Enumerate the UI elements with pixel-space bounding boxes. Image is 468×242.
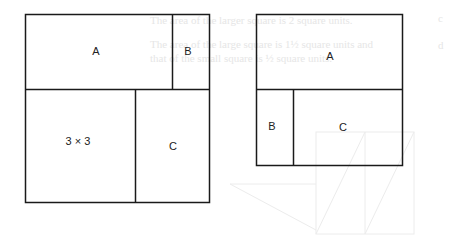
right-label-b: B [268, 120, 275, 132]
left-label-b: B [184, 45, 191, 57]
left-diagram [26, 15, 210, 203]
right-label-c: C [339, 121, 347, 133]
left-label-square: 3 × 3 [66, 135, 91, 147]
right-diagram [257, 15, 403, 166]
bleed-lines [230, 132, 414, 234]
diagram-canvas: A B 3 × 3 C A B C [0, 0, 468, 242]
right-label-a: A [326, 50, 334, 62]
left-label-c: C [169, 140, 177, 152]
left-label-a: A [92, 45, 100, 57]
left-outer-rect [26, 15, 210, 203]
